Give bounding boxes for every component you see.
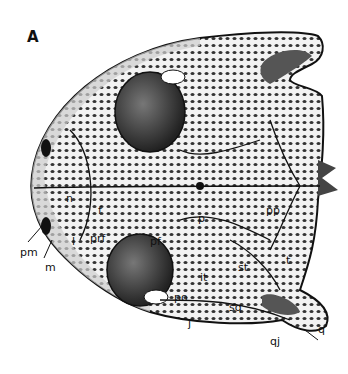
label-postparietal: pp [266, 205, 280, 216]
skull-illustration [0, 0, 348, 374]
label-prefrontal: prf [90, 233, 105, 244]
label-maxilla: m [45, 262, 56, 273]
label-quadratojugal: qj [270, 336, 280, 347]
label-nasal: n [66, 193, 73, 204]
label-premaxilla: pm [20, 247, 38, 258]
label-jugal: j [188, 318, 191, 329]
label-frontal: f [98, 205, 102, 216]
label-squamosal: sq [229, 302, 242, 313]
label-tabular: t [286, 255, 290, 266]
occipital-projection [318, 160, 338, 196]
naris-upper [41, 139, 51, 157]
label-lacrimal: l [72, 236, 75, 247]
label-postfrontal: pf [150, 236, 161, 247]
label-intertemporal: it [200, 272, 207, 283]
label-postorbital: po [174, 292, 188, 303]
panel-label: A [27, 28, 39, 46]
label-quadrate: q [318, 324, 325, 335]
naris-lower [41, 217, 51, 235]
label-supratemporal: st [238, 262, 248, 273]
label-parietal: p [198, 213, 205, 224]
